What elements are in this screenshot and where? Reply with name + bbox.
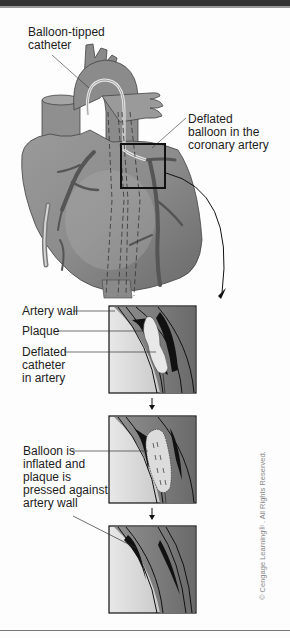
deflated-catheter-panel <box>57 306 196 393</box>
deflated-catheter-label: Deflated catheter in artery <box>22 346 67 385</box>
heart-illustration <box>22 44 226 299</box>
deflated-balloon-label: Deflated balloon in the coronary artery <box>188 113 269 152</box>
artery-wall-label: Artery wall <box>22 305 78 318</box>
copyright-notice: © Cengage Learning® . All Rights Reserve… <box>258 451 267 600</box>
inflated-balloon-label: Balloon is inflated and plaque is presse… <box>23 445 108 510</box>
catheter-label: Balloon-tipped catheter <box>28 26 105 52</box>
angioplasty-diagram <box>0 0 290 638</box>
plaque-label: Plaque <box>22 325 59 338</box>
result-panel <box>73 516 196 613</box>
deflated-balloon-leader <box>152 118 186 148</box>
bottom-rule <box>0 630 290 631</box>
